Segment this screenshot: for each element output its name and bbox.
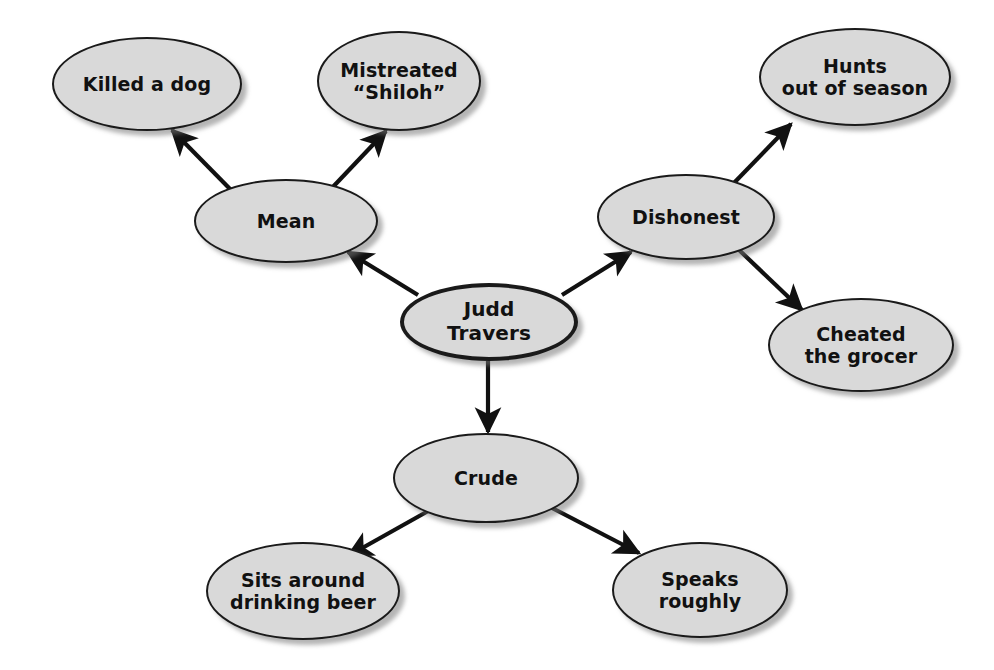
edge-crude-to-sits-around-drinking-beer (348, 510, 430, 556)
edge-dishonest-to-hunts-out-of-season (731, 124, 791, 186)
node-label-dishonest: Dishonest (626, 206, 746, 228)
node-label-killed-a-dog: Killed a dog (77, 73, 217, 95)
edge-center-to-dishonest (562, 252, 631, 295)
edge-mean-to-mistreated-shiloh (330, 131, 386, 190)
node-crude[interactable]: Crude (393, 433, 579, 523)
node-label-sits-around-drinking-beer: Sits around drinking beer (224, 569, 382, 614)
node-mean[interactable]: Mean (194, 179, 378, 263)
node-label-hunts-out-of-season: Hunts out of season (776, 55, 934, 100)
node-speaks-roughly[interactable]: Speaks roughly (612, 542, 788, 638)
node-dishonest[interactable]: Dishonest (597, 174, 775, 260)
node-label-crude: Crude (448, 467, 524, 489)
node-label-mistreated-shiloh: Mistreated “Shiloh” (334, 59, 463, 104)
node-mistreated-shiloh[interactable]: Mistreated “Shiloh” (317, 31, 481, 131)
node-label-judd-travers: Judd Travers (441, 298, 537, 345)
edge-mean-to-killed-a-dog (172, 130, 231, 190)
node-cheated-the-grocer[interactable]: Cheated the grocer (768, 298, 954, 392)
node-hunts-out-of-season[interactable]: Hunts out of season (759, 28, 951, 126)
node-label-cheated-the-grocer: Cheated the grocer (799, 323, 924, 368)
node-sits-around-drinking-beer[interactable]: Sits around drinking beer (206, 542, 400, 640)
diagram-canvas: MeanKilled a dogMistreated “Shiloh”Disho… (0, 0, 994, 670)
node-judd-travers[interactable]: Judd Travers (400, 283, 578, 361)
edge-center-to-mean (348, 252, 418, 295)
node-label-mean: Mean (251, 210, 322, 232)
node-label-speaks-roughly: Speaks roughly (653, 568, 748, 613)
edge-crude-to-speaks-roughly (552, 508, 639, 553)
edge-dishonest-to-cheated-the-grocer (737, 248, 802, 310)
node-killed-a-dog[interactable]: Killed a dog (52, 37, 242, 131)
